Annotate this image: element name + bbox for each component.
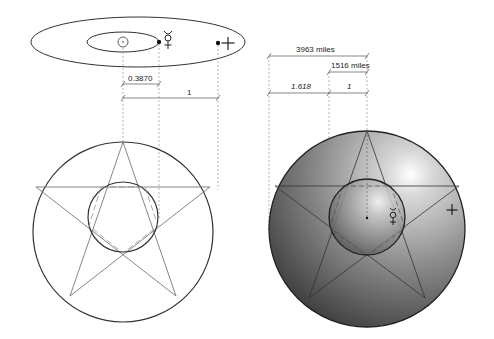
earth-radius-label: 3963 miles bbox=[296, 45, 335, 54]
center-dot bbox=[366, 217, 368, 219]
ratio-dimension bbox=[267, 90, 369, 96]
outer-circle bbox=[33, 142, 213, 322]
orbit-diagram: 0.3870 1 bbox=[31, 17, 245, 220]
earth-distance-label: 1 bbox=[187, 88, 192, 97]
size-diagram: 3963 miles 1516 miles 1.618 1 bbox=[267, 45, 465, 327]
mercury-dot bbox=[157, 40, 161, 44]
mercury-distance-label: 0.3870 bbox=[128, 74, 153, 83]
sun-icon bbox=[118, 37, 128, 47]
earth-dot bbox=[216, 41, 220, 45]
ratio-small-label: 1 bbox=[347, 82, 351, 91]
ratio-large-label: 1.618 bbox=[291, 82, 312, 91]
mercury-symbol-icon bbox=[164, 31, 172, 49]
mercury-radius-label: 1516 miles bbox=[331, 61, 370, 70]
earth-symbol-icon bbox=[222, 37, 235, 50]
left-pentagram-figure bbox=[33, 142, 213, 322]
earth-orbit bbox=[31, 17, 245, 67]
earth-dimension bbox=[121, 95, 220, 101]
diagram-canvas: 0.3870 1 3963 miles 15 bbox=[0, 0, 494, 339]
inner-circle bbox=[88, 182, 158, 252]
